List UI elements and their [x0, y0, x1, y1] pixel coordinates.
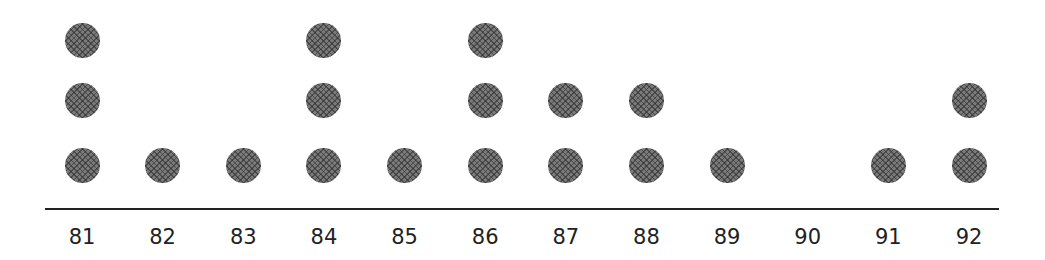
x-tick-label: 92: [949, 225, 989, 249]
data-dot: [548, 148, 583, 183]
data-dot: [468, 83, 503, 118]
data-dot: [629, 83, 664, 118]
data-dot: [65, 148, 100, 183]
data-dot: [710, 148, 745, 183]
x-tick-label: 86: [465, 225, 505, 249]
x-tick-label: 82: [143, 225, 183, 249]
dot-plot: 818283848586878889909192: [0, 0, 1045, 260]
data-dot: [387, 148, 422, 183]
x-tick-label: 81: [62, 225, 102, 249]
x-axis-line: [45, 208, 999, 210]
x-tick-label: 90: [788, 225, 828, 249]
data-dot: [952, 83, 987, 118]
x-tick-label: 87: [546, 225, 586, 249]
x-tick-label: 91: [868, 225, 908, 249]
x-tick-label: 88: [626, 225, 666, 249]
x-tick-label: 84: [304, 225, 344, 249]
data-dot: [306, 148, 341, 183]
data-dot: [468, 23, 503, 58]
data-dot: [548, 83, 583, 118]
data-dot: [65, 83, 100, 118]
data-dot: [306, 23, 341, 58]
data-dot: [226, 148, 261, 183]
x-tick-label: 89: [707, 225, 747, 249]
data-dot: [871, 148, 906, 183]
x-tick-label: 83: [223, 225, 263, 249]
data-dot: [306, 83, 341, 118]
data-dot: [145, 148, 180, 183]
data-dot: [468, 148, 503, 183]
data-dot: [65, 23, 100, 58]
data-dot: [952, 148, 987, 183]
data-dot: [629, 148, 664, 183]
x-tick-label: 85: [385, 225, 425, 249]
